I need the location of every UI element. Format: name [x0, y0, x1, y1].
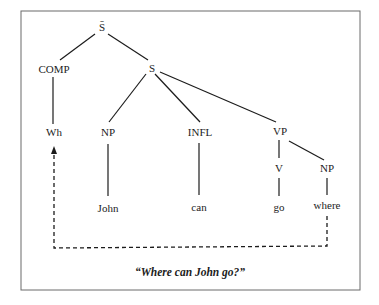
caption: “Where can John go?” [135, 266, 245, 278]
leaf-can: can [191, 202, 206, 213]
node-np-object: NP [320, 163, 334, 174]
leaf-john: John [98, 203, 119, 214]
node-vp: VP [273, 126, 287, 137]
tree-edges [53, 34, 327, 196]
leaf-where: where [314, 200, 341, 211]
arrow-head-icon [51, 146, 57, 154]
node-infl: INFL [188, 127, 212, 138]
node-np-subject: NP [101, 127, 115, 138]
node-v: V [275, 163, 283, 174]
node-s-bar: S̄ [99, 22, 105, 33]
node-comp: COMP [38, 64, 69, 75]
tree-diagram [0, 0, 379, 305]
frame-border [21, 11, 360, 290]
node-wh: Wh [46, 127, 62, 138]
node-s: S [149, 63, 155, 74]
leaf-go: go [274, 202, 285, 213]
